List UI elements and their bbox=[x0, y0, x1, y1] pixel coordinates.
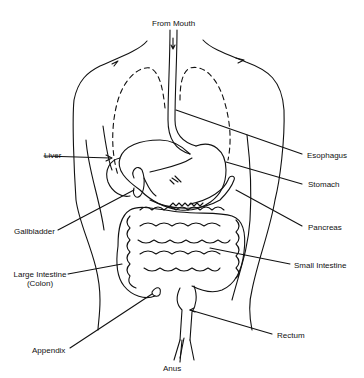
digestive-system-diagram: From Mouth Liver Gallbladder Large Intes… bbox=[0, 0, 364, 378]
label-from-mouth: From Mouth bbox=[152, 19, 195, 28]
label-appendix: Appendix bbox=[32, 346, 65, 355]
leader-stomach bbox=[226, 162, 302, 184]
label-gallbladder: Gallbladder bbox=[14, 227, 55, 236]
label-small-intestine: Small Intestine bbox=[294, 261, 346, 270]
label-stomach: Stomach bbox=[308, 180, 340, 189]
rectum bbox=[177, 286, 196, 340]
leader-appendix bbox=[70, 294, 152, 348]
label-rectum: Rectum bbox=[277, 331, 305, 340]
label-large-intestine: Large Intestine (Colon) bbox=[12, 270, 68, 288]
leader-pancreas bbox=[236, 190, 302, 226]
torso-outline-right bbox=[203, 40, 284, 330]
anatomy-illustration bbox=[0, 0, 364, 378]
lung-left bbox=[113, 68, 165, 175]
gallbladder bbox=[133, 168, 144, 198]
stomach bbox=[119, 140, 226, 210]
label-liver: Liver bbox=[44, 151, 61, 160]
appendix bbox=[152, 288, 160, 296]
label-anus: Anus bbox=[163, 364, 181, 373]
large-intestine bbox=[117, 207, 245, 297]
label-esophagus: Esophagus bbox=[307, 151, 347, 160]
label-pancreas: Pancreas bbox=[308, 223, 342, 232]
leader-esophagus bbox=[176, 110, 302, 154]
leader-small-intestine bbox=[210, 248, 290, 264]
liver bbox=[107, 158, 130, 196]
small-intestine bbox=[140, 223, 220, 226]
leader-gallbladder bbox=[58, 190, 134, 230]
leader-rectum bbox=[190, 310, 272, 334]
